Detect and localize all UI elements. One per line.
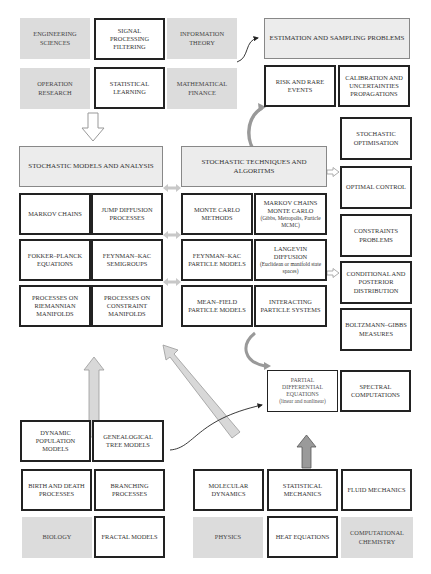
topic-calibration: CALIBRATION AND UNCERTAINTIES PROPAGATIO… [338,65,410,107]
topic-molecular-dynamics: MOLECULAR DYNAMICS [193,469,264,511]
topic-statistical-learning: STATISTICAL LEARNING [94,67,165,109]
header-stochastic-techniques: STOCHASTIC TECHNIQUES AND ALGORITMS [181,146,327,187]
topic-feynman-kac-semigroups: FEYNMAN–KAC SEMIGROUPS [91,239,163,281]
topic-fokker-planck: FOKKER–PLANCK EQUATIONS [19,239,91,281]
field-engineering-sciences: ENGINEERING SCIENCES [20,18,90,59]
field-mathematical-finance: MATHEMATICAL FINANCE [167,68,237,109]
topic-risk-rare-events: RISK AND RARE EVENTS [264,65,336,107]
topic-fluid-mechanics: FLUID MECHANICS [341,469,412,511]
topic-stochastic-optimisation: STOCHASTIC OPTIMISATION [340,117,412,160]
field-biology: BIOLOGY [22,517,92,558]
pde-title: PARTIAL DIFFERENTIAL EQUATIONS [270,377,335,399]
topic-constraints-problems: CONSTRAINTS PROBLEMS [340,214,412,257]
topic-jump-diffusion: JUMP DIFFUSION PROCESSES [91,193,163,235]
topic-spectral-computations: SPECTRAL COMPUTATIONS [340,370,411,412]
topic-interacting-particle: INTERACTING PARTICLE SYSTEMS [254,285,327,327]
header-estimation-sampling: ESTIMATION AND SAMPLING PROBLEMS [264,18,410,59]
topic-feynman-kac-particle: FEYNMAN–KAC PARTICLE MODELS [181,239,253,281]
topic-signal-processing: SIGNAL PROCESSING FILTERING [94,18,165,60]
field-operation-research: OPERATION RESEARCH [20,68,90,109]
topic-fractal-models: FRACTAL MODELS [94,516,165,558]
mcmc-title: MARKOV CHAINS MONTE CARLO [258,199,323,215]
topic-optimal-control: OPTIMAL CONTROL [340,166,412,209]
field-computational-chemistry: COMPUTATIONAL CHEMISTRY [341,517,413,558]
topic-mcmc: MARKOV CHAINS MONTE CARLO (Gibbs, Metrop… [254,193,327,235]
topic-markov-chains: MARKOV CHAINS [19,193,91,235]
topic-mean-field: MEAN–FIELD PARTICLE MODELS [181,285,253,327]
topic-branching-processes: BRANCHING PROCESSES [94,469,165,511]
field-information-theory: INFORMATION THEORY [167,18,237,59]
langevin-subtitle: (Euclidean or manifold state spaces) [258,261,323,275]
topic-riemannian-manifolds: PROCESSES ON RIEMANNIAN MANIFOLDS [19,285,91,327]
topic-boltzmann-gibbs: BOLTZMANN–GIBBS MEASURES [340,308,412,351]
langevin-title: LANGEVIN DIFFUSION [258,245,323,261]
header-stochastic-models: STOCHASTIC MODELS AND ANALYSIS [19,146,163,187]
topic-langevin: LANGEVIN DIFFUSION (Euclidean or manifol… [254,239,327,281]
topic-conditional-posterior: CONDITIONAL AND POSTERIOR DISTRIBUTION [340,261,412,304]
down-arrow-icon [82,113,104,141]
topic-statistical-mechanics: STATISTICAL MECHANICS [267,469,338,511]
topic-birth-death: BIRTH AND DEATH PROCESSES [21,469,92,511]
topic-genealogical-tree: GENEALOGICAL TREE MODELS [92,420,164,462]
topic-pde: PARTIAL DIFFERENTIAL EQUATIONS (linear a… [267,370,338,412]
topic-dynamic-population: DYNAMIC POPULATION MODELS [20,420,91,462]
pde-subtitle: (linear and nonlinear) [279,398,326,405]
field-physics: PHYSICS [193,517,263,558]
topic-constraint-manifolds: PROCESSES ON CONSTRAINT MANIFOLDS [91,285,163,327]
topic-heat-equations: HEAT EQUATIONS [267,516,338,558]
mcmc-subtitle: (Gibbs, Metropolis, Particle MCMC) [258,215,323,229]
topic-monte-carlo: MONTE CARLO METHODS [181,193,253,235]
